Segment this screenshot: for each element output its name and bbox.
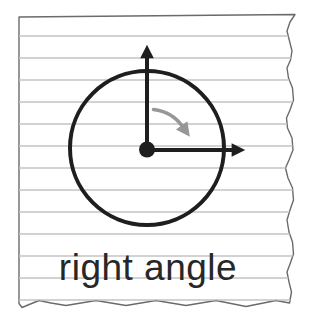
caption: right angle xyxy=(19,249,277,288)
flashcard-illustration: right angle xyxy=(0,0,319,325)
center-dot xyxy=(139,142,155,158)
